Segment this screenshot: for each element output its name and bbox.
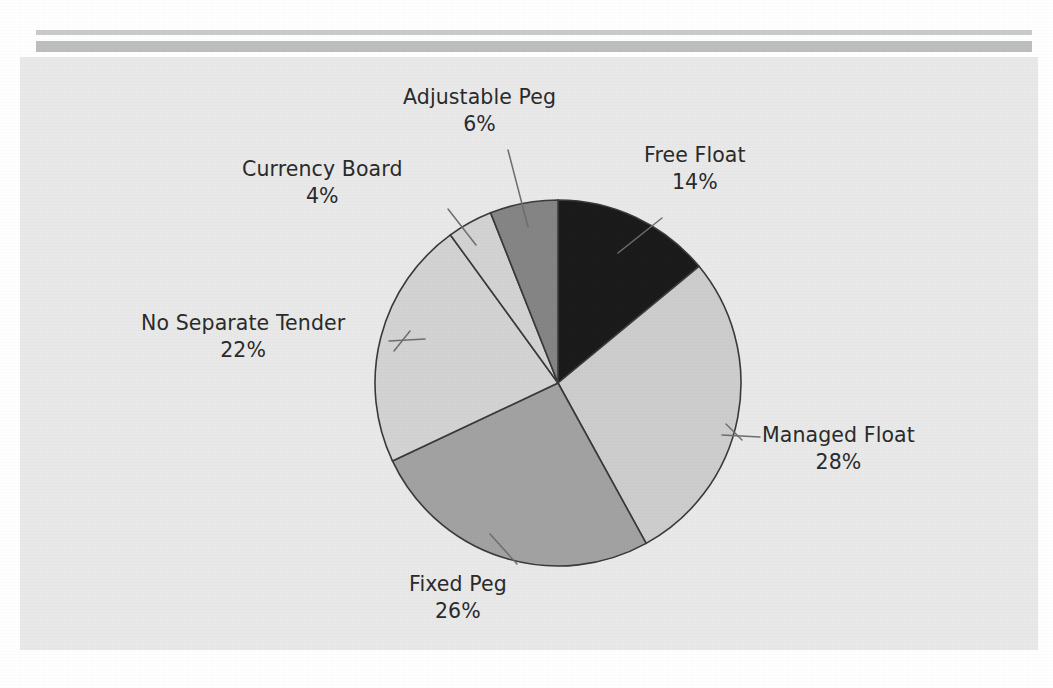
pie-label-currency-board-name: Currency Board [242,156,403,183]
pie-chart-figure: Adjustable Peg 6% Currency Board 4% No S… [0,0,1053,688]
pie-label-managed-float-name: Managed Float [762,422,915,449]
pie-label-fixed-peg: Fixed Peg 26% [409,571,507,625]
pie-label-no-separate-tender-name: No Separate Tender [141,310,345,337]
pie-label-free-float-value: 14% [644,169,746,196]
pie-label-currency-board-value: 4% [242,183,403,210]
pie-label-adjustable-peg: Adjustable Peg 6% [403,84,556,138]
pie-label-currency-board: Currency Board 4% [242,156,403,210]
pie-label-fixed-peg-name: Fixed Peg [409,571,507,598]
pie-label-fixed-peg-value: 26% [409,598,507,625]
header-rule [36,30,1032,55]
pie-label-free-float-name: Free Float [644,142,746,169]
pie-label-adjustable-peg-name: Adjustable Peg [403,84,556,111]
header-rule-thick [36,41,1032,52]
pie-label-managed-float: Managed Float 28% [762,422,915,476]
pie-label-free-float: Free Float 14% [644,142,746,196]
pie-label-managed-float-value: 28% [762,449,915,476]
pie-label-adjustable-peg-value: 6% [403,111,556,138]
pie-label-no-separate-tender-value: 22% [141,337,345,364]
pie-label-no-separate-tender: No Separate Tender 22% [141,310,345,364]
